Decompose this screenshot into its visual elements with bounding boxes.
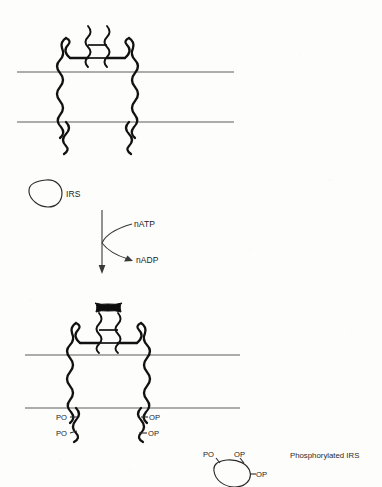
irs-label: IRS (66, 189, 81, 199)
phospho-irs-label-1: PO (203, 450, 214, 459)
insulin-ligand (95, 303, 122, 312)
phosphate-label-right-2: OP (148, 429, 159, 438)
phospho-irs-label-3: OP (256, 470, 267, 479)
insulin-receptor-diagram: IRS nATP nADP PO (0, 0, 382, 487)
phospho-irs-label-2: OP (234, 450, 245, 459)
phosphate-label-left-1: PO (56, 413, 67, 422)
phosphate-label-right-1: OP (149, 413, 160, 422)
nadp-label: nADP (136, 255, 159, 265)
phosphate-label-left-2: PO (56, 429, 67, 438)
phospho-irs-caption: Phosphorylated IRS (290, 451, 359, 460)
natp-label: nATP (134, 219, 155, 229)
